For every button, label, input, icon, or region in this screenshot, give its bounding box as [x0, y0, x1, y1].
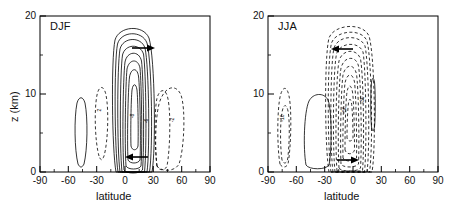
y-ticks-jja: [268, 16, 274, 172]
x-tick-label-djf-5: 60: [168, 175, 196, 186]
y-tick-label-djf-2: 20: [12, 10, 36, 21]
y-axis-title-djf: z (km): [8, 91, 20, 122]
contour-label-jja-2: -30: [359, 96, 365, 103]
x-tick-label-jja-3: 0: [339, 175, 367, 186]
x-tick-label-jja-6: 90: [424, 175, 452, 186]
contour-label-djf-2: -6: [143, 119, 149, 124]
panel-title-djf: DJF: [50, 20, 71, 32]
x-tick-label-djf-3: 0: [111, 175, 139, 186]
y-tick-label-jja-0: 0: [240, 166, 264, 177]
x-tick-label-djf-6: 90: [196, 175, 224, 186]
figure-container: 2 -8 -6 -2 DJF -90 -60 -30 0 30 60 90 0 …: [0, 0, 465, 212]
contour-label-jja-1: -50: [341, 106, 347, 113]
y-ticks-djf: [40, 16, 46, 172]
y-tick-label-jja-2: 20: [240, 10, 264, 21]
feature-southern-polar-lobe-jja: [278, 88, 291, 167]
contour-label-djf-0: 2: [96, 108, 102, 111]
axes-frame-jja: [268, 16, 438, 172]
feature-southern-subtropical-lobe-djf: [95, 88, 107, 160]
x-tick-label-jja-5: 60: [396, 175, 424, 186]
contour-label-jja-0: -10: [279, 114, 285, 121]
lower-branch-arrow-djf: [125, 154, 148, 161]
contour-labels-djf: 2 -8 -6 -2: [96, 108, 175, 123]
x-tick-label-djf-4: 30: [139, 175, 167, 186]
x-axis-title-jja: latitude: [324, 190, 359, 202]
x-tick-label-djf-2: -30: [83, 175, 111, 186]
y-tick-label-jja-1: 10: [240, 88, 264, 99]
feature-southern-midlatitude-lobe-jja: [304, 94, 331, 168]
feature-northern-subtropical-lobe-outer-djf: [156, 88, 184, 170]
panel-jja: -10 -50 -30 JJA -90 -60 -30 0 30 60 90 0…: [233, 0, 465, 212]
x-axis-title-djf: latitude: [96, 190, 131, 202]
y-tick-label-djf-0: 0: [12, 166, 36, 177]
contour-label-djf-1: -8: [129, 114, 135, 119]
panel-title-jja: JJA: [278, 20, 297, 32]
panel-djf: 2 -8 -6 -2 DJF -90 -60 -30 0 30 60 90 0 …: [0, 0, 232, 212]
feature-southern-midlatitude-lobe-djf: [75, 98, 87, 167]
x-tick-label-jja-2: -30: [311, 175, 339, 186]
lower-branch-arrow-jja: [337, 157, 359, 164]
x-tick-label-jja-1: -60: [282, 175, 310, 186]
feature-northern-subtropical-lobe-inner-djf: [155, 91, 170, 170]
contours-djf: [75, 28, 184, 173]
x-tick-label-jja-4: 30: [367, 175, 395, 186]
x-tick-label-djf-1: -60: [54, 175, 82, 186]
contour-label-djf-3: -2: [169, 118, 175, 123]
